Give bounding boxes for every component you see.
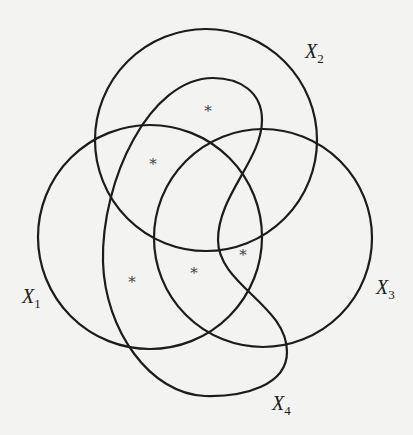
region-marker-asterisk: * bbox=[128, 273, 136, 291]
region-marker-asterisk: * bbox=[204, 102, 212, 120]
label-x2: X2 bbox=[305, 40, 324, 67]
label-x4: X4 bbox=[272, 392, 291, 419]
region-marker-asterisk: * bbox=[149, 155, 157, 173]
label-x1: X1 bbox=[22, 285, 41, 312]
venn-diagram: ***** X1 X2 X3 X4 bbox=[0, 0, 413, 435]
label-x3: X3 bbox=[376, 276, 395, 303]
diagram-canvas: ***** bbox=[0, 0, 413, 435]
region-marker-asterisk: * bbox=[239, 246, 247, 264]
region-marker-asterisk: * bbox=[190, 264, 198, 282]
